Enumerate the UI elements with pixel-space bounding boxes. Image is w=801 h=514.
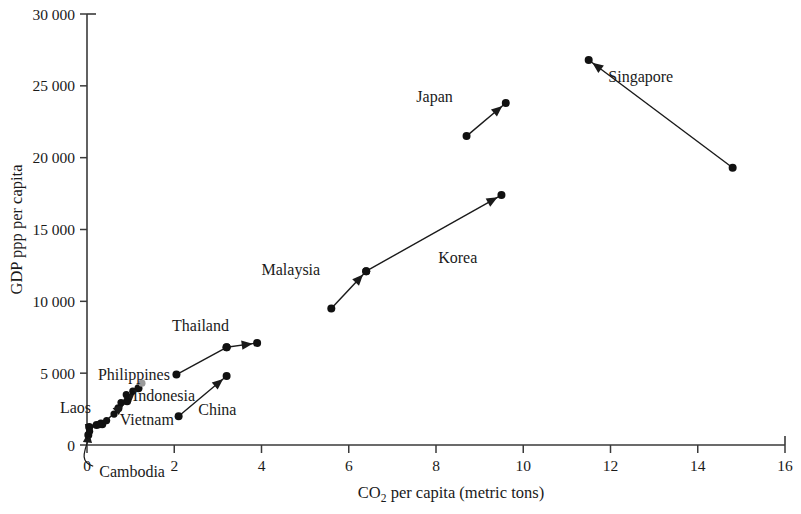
series-label-singapore: Singapore (608, 68, 673, 86)
start-point (463, 132, 471, 140)
series-philippines (172, 343, 230, 378)
data-point-cluster-point-d (110, 411, 117, 418)
y-tick-label: 25 000 (32, 77, 75, 94)
start-point (172, 371, 180, 379)
x-tick-label: 8 (432, 457, 440, 474)
data-point-cluster-point-c (117, 399, 124, 406)
series-label-japan: Japan (416, 88, 452, 106)
y-tick-label: 15 000 (32, 221, 75, 238)
series-label-indonesia: Indonesia (133, 387, 195, 404)
end-point (223, 372, 231, 380)
start-point (327, 305, 335, 313)
series-label-thailand: Thailand (172, 317, 229, 334)
end-point (362, 267, 370, 275)
data-point-cluster-point-e (103, 417, 110, 424)
y-tick-label: 5 000 (40, 365, 75, 382)
trend-line (176, 347, 226, 374)
x-axis-title: CO2 per capita (metric tons) (358, 483, 544, 504)
trend-arrowhead (241, 341, 253, 350)
series-label-korea: Korea (438, 249, 477, 266)
series-label-malaysia: Malaysia (262, 261, 321, 279)
trend-arrowhead (486, 197, 498, 206)
end-point (497, 191, 505, 199)
series-label-china: China (198, 401, 236, 418)
x-tick-label: 12 (603, 457, 619, 474)
series-japan (463, 99, 510, 140)
x-tick-label: 10 (516, 457, 532, 474)
y-tick-label: 0 (67, 437, 75, 454)
x-tick-label: 2 (170, 457, 178, 474)
series-label-laos: Laos (60, 399, 91, 416)
data-point-cluster-point-a (123, 391, 130, 398)
start-point (175, 412, 183, 420)
y-tick-label: 20 000 (32, 149, 75, 166)
x-tick-label: 16 (777, 457, 793, 474)
trend-arrowhead (592, 63, 604, 73)
end-point (585, 56, 593, 64)
data-point-cluster-point-g (86, 428, 93, 435)
series-malaysia (327, 267, 370, 312)
trend-line (366, 195, 501, 271)
x-axis-title-main: CO (358, 483, 381, 502)
start-point (729, 164, 737, 172)
chart-figure: 05 00010 00015 00020 00025 00030 0000246… (0, 0, 801, 514)
end-point (223, 343, 231, 351)
series-layer (83, 56, 737, 466)
series-korea (362, 191, 505, 275)
series-label-philippines: Philippines (98, 366, 170, 384)
x-tick-label: 6 (345, 457, 353, 474)
data-point-cluster-point-f (96, 421, 103, 428)
x-axis-title-rest: per capita (metric tons) (387, 483, 545, 502)
series-label-cambodia: Cambodia (99, 463, 165, 480)
y-tick-label: 30 000 (32, 6, 75, 23)
y-tick-label: 10 000 (32, 293, 75, 310)
x-tick-label: 4 (258, 457, 266, 474)
y-axis-title: GDP ppp per capita (7, 164, 26, 295)
scatter-plot-canvas: 05 00010 00015 00020 00025 00030 0000246… (0, 0, 801, 514)
end-point (502, 99, 510, 107)
x-tick-label: 14 (690, 457, 706, 474)
series-label-vietnam: Vietnam (120, 411, 175, 428)
end-point (253, 339, 261, 347)
